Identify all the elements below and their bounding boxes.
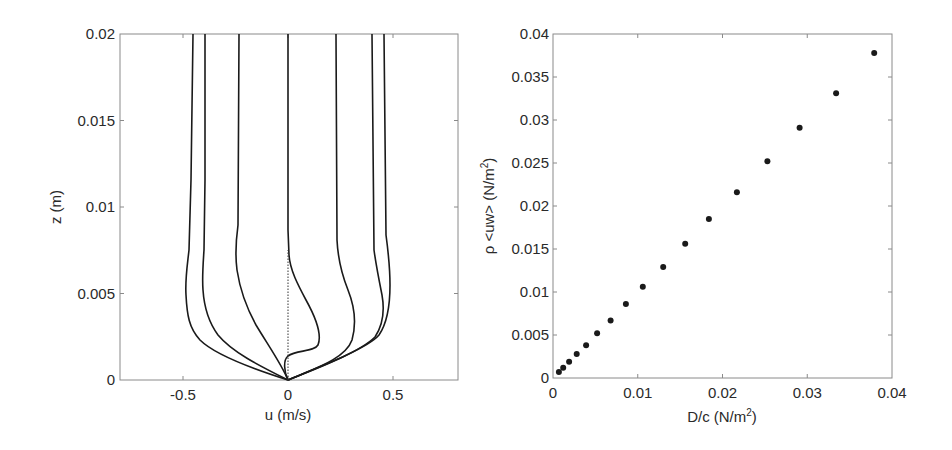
data-point	[594, 330, 600, 336]
right-y-axis-label: ρ <uw> (N/m2)	[479, 158, 497, 255]
right-plot-area	[553, 34, 892, 378]
right-ytick-label: 0.02	[520, 197, 549, 214]
data-point	[640, 284, 646, 290]
left-xtick-label: 0.5	[383, 386, 404, 403]
right-y-axis-label-main: ρ <uw> (N/m	[480, 168, 497, 254]
right-ytick-label: 0.005	[511, 326, 549, 343]
data-point	[623, 301, 629, 307]
right-x-axis-label-main: D/c (N/m	[687, 408, 746, 425]
right-y-axis-label-end: )	[480, 158, 497, 163]
data-point	[660, 264, 666, 270]
right-xtick-label: 0.03	[793, 384, 822, 401]
left-ytick-label: 0.015	[77, 112, 115, 129]
data-point	[574, 351, 580, 357]
right-ytick-label: 0.03	[520, 111, 549, 128]
left-y-axis-label: z (m)	[47, 190, 64, 224]
left-ytick-label: 0.01	[86, 198, 115, 215]
data-point	[560, 365, 566, 371]
right-y-ticks	[553, 77, 892, 335]
right-ytick-label: 0.01	[520, 283, 549, 300]
right-xtick-label: 0	[549, 384, 557, 401]
right-ytick-label: 0.015	[511, 240, 549, 257]
data-point	[556, 369, 562, 375]
left-plot-area	[120, 34, 458, 380]
right-ytick-label: 0.035	[511, 68, 549, 85]
profile-line	[285, 34, 320, 380]
data-point	[871, 50, 877, 56]
data-point	[682, 241, 688, 247]
data-point	[583, 342, 589, 348]
right-ytick-label: 0.04	[520, 25, 549, 42]
left-ytick-label: 0	[107, 371, 115, 388]
profile-line	[203, 34, 288, 380]
profile-line	[236, 34, 288, 380]
right-xtick-label: 0.04	[877, 384, 906, 401]
right-chart: 0 0.01 0.02 0.03 0.04 0 0.005 0.01 0.015…	[479, 25, 907, 425]
left-x-axis-label: u (m/s)	[265, 406, 312, 423]
profile-line	[288, 34, 355, 380]
right-x-axis-label: D/c (N/m2)	[687, 407, 757, 425]
profile-line	[186, 34, 288, 380]
left-y-ticks	[120, 121, 458, 294]
right-ytick-label: 0	[541, 369, 549, 386]
left-ytick-label: 0.005	[77, 285, 115, 302]
right-x-ticks	[638, 34, 808, 378]
scatter-points	[556, 50, 877, 375]
data-point	[566, 359, 572, 365]
right-xtick-label: 0.01	[623, 384, 652, 401]
left-xtick-label: -0.5	[170, 386, 196, 403]
data-point	[734, 189, 740, 195]
data-point	[608, 317, 614, 323]
left-ytick-label: 0.02	[86, 25, 115, 42]
data-point	[764, 158, 770, 164]
right-xtick-label: 0.02	[708, 384, 737, 401]
velocity-profiles	[186, 34, 390, 380]
data-point	[797, 125, 803, 131]
right-x-axis-label-end: )	[752, 408, 757, 425]
right-ytick-label: 0.025	[511, 154, 549, 171]
data-point	[706, 216, 712, 222]
left-xtick-label: 0	[284, 386, 292, 403]
left-chart: -0.5 0 0.5 0 0.005 0.01 0.015 0.02 u (m/…	[47, 25, 458, 423]
profile-line	[288, 34, 390, 380]
data-point	[833, 90, 839, 96]
figure: -0.5 0 0.5 0 0.005 0.01 0.015 0.02 u (m/…	[0, 0, 952, 450]
